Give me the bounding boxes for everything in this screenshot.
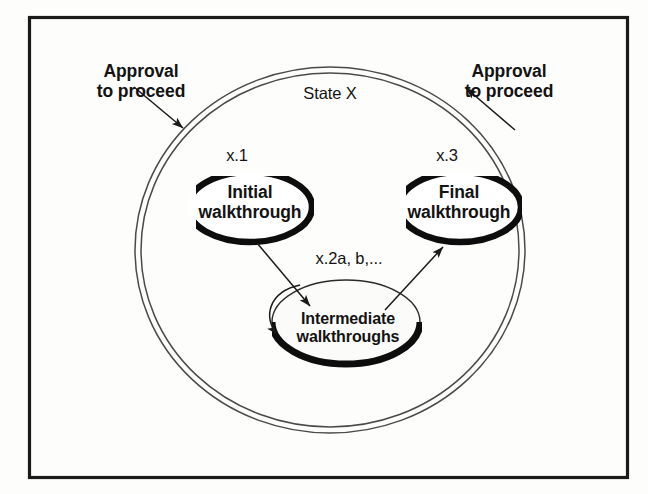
- figure-root: Approval to proceed Approval to proceed …: [0, 0, 648, 494]
- step-label-intermediate: x.2a, b,...: [296, 249, 402, 267]
- step-label-initial: x.1: [202, 146, 272, 164]
- node-initial-label: Initial walkthrough: [182, 183, 318, 222]
- node-final-label: Final walkthrough: [394, 183, 524, 222]
- approval-right-label: Approval to proceed: [444, 62, 574, 101]
- step-label-final: x.3: [412, 146, 482, 164]
- node-intermediate-label: Intermediate walkthroughs: [272, 310, 424, 346]
- state-container-label: State X: [280, 84, 380, 102]
- approval-left-label: Approval to proceed: [76, 62, 206, 101]
